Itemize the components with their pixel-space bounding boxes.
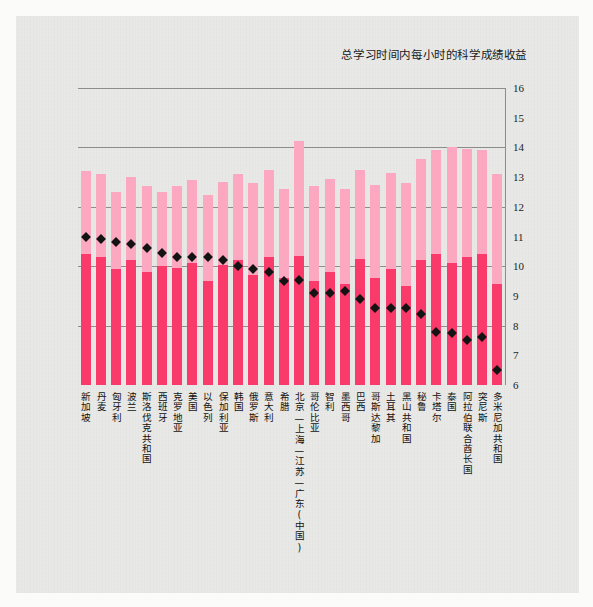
y-tick-label: 13	[513, 171, 524, 183]
bar-segment-upper	[279, 189, 289, 278]
x-tick-label: 哥伦比亚	[310, 392, 320, 434]
y-tick-label: 9	[513, 290, 519, 302]
x-tick-label: 韩国	[233, 392, 243, 413]
bar-segment-upper	[187, 180, 197, 263]
bar-column	[142, 186, 152, 385]
bar-column	[172, 186, 182, 385]
bar-column	[96, 174, 106, 385]
x-tick-label: 美国	[188, 392, 198, 413]
bar-column	[294, 141, 304, 385]
x-tick-label: 丹麦	[96, 392, 106, 413]
bar-column	[203, 195, 213, 385]
bar-column	[81, 171, 91, 385]
chart-page: 总学习时间内每小时的科学成绩收益 678910111213141516 新加坡丹…	[0, 0, 593, 607]
y-tick-label: 15	[513, 112, 524, 124]
bar-column	[111, 192, 121, 385]
x-tick-label: 匈牙利	[111, 392, 121, 423]
y-tick-label: 6	[513, 379, 519, 391]
bar-segment-upper	[96, 174, 106, 257]
bar-segment-upper	[248, 183, 258, 275]
bar-segment-lower	[386, 269, 396, 385]
bar-segment-lower	[447, 263, 457, 385]
bar-column	[355, 170, 365, 385]
bar-segment-upper	[370, 185, 380, 279]
bar-segment-lower	[248, 275, 258, 385]
bar-column	[218, 182, 228, 385]
bar-column	[233, 174, 243, 385]
gridline-14	[78, 147, 505, 148]
bar-column	[279, 189, 289, 385]
bar-segment-lower	[187, 263, 197, 385]
x-tick-label: 希腊	[279, 392, 289, 413]
bar-segment-upper	[477, 150, 487, 254]
bar-segment-lower	[203, 281, 213, 385]
bar-segment-upper	[462, 149, 472, 257]
x-tick-label: 阿拉伯联合酋长国	[462, 392, 472, 475]
bar-segment-upper	[431, 150, 441, 254]
x-tick-label: 哥斯达黎加	[371, 392, 381, 444]
bar-segment-upper	[294, 141, 304, 255]
bar-column	[477, 150, 487, 385]
bar-segment-lower	[96, 257, 106, 385]
y-tick-label: 7	[513, 349, 519, 361]
x-tick-label: 土耳其	[386, 392, 396, 423]
bar-segment-lower	[370, 278, 380, 385]
bar-segment-lower	[431, 254, 441, 385]
bar-segment-lower	[218, 265, 228, 385]
bar-segment-upper	[416, 159, 426, 260]
bar-column	[325, 179, 335, 385]
bar-column	[126, 177, 136, 385]
x-tick-label: 墨西哥	[340, 392, 350, 423]
bar-segment-lower	[142, 272, 152, 385]
page-margin-left	[0, 0, 16, 607]
bar-segment-lower	[477, 254, 487, 385]
bar-segment-upper	[218, 182, 228, 265]
bar-column	[431, 150, 441, 385]
bar-segment-upper	[142, 186, 152, 272]
x-tick-label: 巴西	[355, 392, 365, 413]
x-tick-label: 保加利亚	[218, 392, 228, 434]
bar-segment-upper	[447, 147, 457, 263]
bar-column	[401, 183, 411, 385]
x-tick-label: 多米尼加共和国	[493, 392, 503, 465]
bar-segment-upper	[309, 186, 319, 281]
plot-area	[78, 88, 505, 385]
x-tick-label: 以色列	[203, 392, 213, 423]
bar-segment-lower	[416, 260, 426, 385]
page-margin-top	[0, 0, 593, 16]
bar-segment-upper	[264, 170, 274, 258]
page-margin-bottom	[0, 593, 593, 607]
x-tick-label: 克罗地亚	[172, 392, 182, 434]
x-tick-label: 突尼斯	[477, 392, 487, 423]
bar-segment-lower	[401, 286, 411, 385]
x-tick-label: 秘鲁	[416, 392, 426, 413]
bar-segment-lower	[81, 254, 91, 385]
x-tick-label: 泰国	[447, 392, 457, 413]
y-tick-label: 16	[513, 82, 524, 94]
bar-segment-upper	[111, 192, 121, 269]
bar-column	[309, 186, 319, 385]
bar-column	[264, 170, 274, 385]
bar-segment-upper	[401, 183, 411, 285]
y-tick-label: 11	[513, 231, 524, 243]
bar-segment-lower	[172, 268, 182, 385]
x-tick-label: 意大利	[264, 392, 274, 423]
gridline-16	[78, 88, 505, 89]
bar-column	[386, 173, 396, 385]
bar-segment-lower	[157, 266, 167, 385]
bar-column	[187, 180, 197, 385]
bar-segment-upper	[340, 189, 350, 284]
x-tick-label: 斯洛伐克共和国	[142, 392, 152, 465]
x-tick-label: 北京—上海—江苏—广东(中国)	[294, 392, 304, 553]
bar-column	[370, 185, 380, 385]
y-tick-label: 12	[513, 201, 524, 213]
bar-segment-upper	[203, 195, 213, 281]
bar-segment-lower	[233, 260, 243, 385]
x-tick-label: 俄罗斯	[249, 392, 259, 423]
x-tick-label: 波兰	[127, 392, 137, 413]
y-axis-line	[505, 88, 506, 385]
bar-segment-lower	[355, 259, 365, 385]
bar-column	[462, 149, 472, 385]
bar-segment-upper	[386, 173, 396, 270]
x-tick-label: 黑山共和国	[401, 392, 411, 444]
